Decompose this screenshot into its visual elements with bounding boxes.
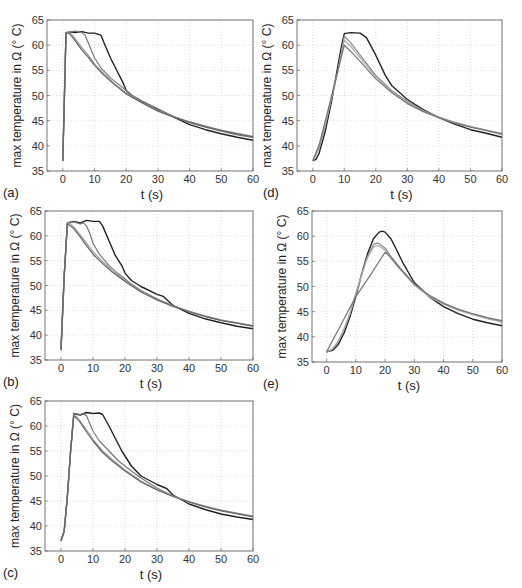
y-tick-label: 50 — [282, 90, 294, 102]
y-tick-label: 35 — [30, 545, 42, 557]
y-axis-label: max temperature in Ω (° C) — [8, 404, 22, 548]
x-tick-label: 60 — [247, 553, 259, 565]
y-tick-label: 40 — [30, 520, 42, 532]
y-axis-label: max temperature in Ω (° C) — [260, 24, 274, 168]
x-tick-label: 20 — [120, 173, 132, 185]
x-tick-label: 20 — [119, 553, 131, 565]
y-tick-label: 55 — [297, 255, 309, 267]
y-tick-label: 60 — [32, 39, 44, 51]
x-tick-label: 50 — [215, 553, 227, 565]
y-tick-label: 55 — [30, 445, 42, 457]
x-tick-label: 50 — [215, 362, 227, 374]
y-tick-label: 55 — [30, 255, 42, 267]
x-tick-label: 10 — [87, 362, 99, 374]
y-tick-label: 45 — [297, 306, 309, 318]
panel-a: 010203040506035404550556065t (s)max temp… — [3, 14, 259, 202]
multi-panel-chart: 010203040506035404550556065t (s)max temp… — [0, 0, 522, 588]
x-tick-label: 50 — [215, 173, 227, 185]
panel-c: 010203040506035404550556065t (s)max temp… — [3, 395, 259, 582]
x-tick-label: 60 — [496, 364, 508, 376]
y-tick-label: 55 — [32, 64, 44, 76]
y-tick-label: 50 — [30, 470, 42, 482]
y-tick-label: 35 — [30, 354, 42, 366]
x-tick-label: 50 — [464, 173, 476, 185]
x-tick-label: 30 — [408, 364, 420, 376]
x-axis-label: t (s) — [390, 187, 412, 202]
y-tick-label: 60 — [297, 230, 309, 242]
x-tick-label: 10 — [338, 173, 350, 185]
x-tick-label: 60 — [247, 362, 259, 374]
y-tick-label: 50 — [30, 280, 42, 292]
x-tick-label: 40 — [183, 553, 195, 565]
y-tick-label: 60 — [30, 420, 42, 432]
y-tick-label: 65 — [297, 205, 309, 217]
x-tick-label: 40 — [183, 173, 195, 185]
x-tick-label: 20 — [119, 362, 131, 374]
x-tick-label: 0 — [324, 364, 330, 376]
x-tick-label: 0 — [58, 553, 64, 565]
x-tick-label: 30 — [151, 553, 163, 565]
x-tick-label: 0 — [310, 173, 316, 185]
plot-area — [45, 211, 253, 360]
y-tick-label: 40 — [282, 140, 294, 152]
y-tick-label: 65 — [30, 205, 42, 217]
y-tick-label: 45 — [282, 115, 294, 127]
y-tick-label: 60 — [282, 39, 294, 51]
x-tick-label: 0 — [60, 173, 66, 185]
panel-e: 010203040506035404550556065t (s)max temp… — [263, 205, 508, 393]
panel-label: (d) — [263, 185, 279, 200]
panel-d: 010203040506035404550556065t (s)max temp… — [260, 14, 508, 202]
y-tick-label: 40 — [297, 331, 309, 343]
x-tick-label: 30 — [152, 173, 164, 185]
y-tick-label: 45 — [30, 304, 42, 316]
figure: 010203040506035404550556065t (s)max temp… — [0, 0, 522, 588]
y-tick-label: 55 — [282, 64, 294, 76]
x-tick-label: 10 — [87, 553, 99, 565]
panel-label: (c) — [3, 565, 18, 580]
x-axis-label: t (s) — [140, 376, 162, 391]
y-tick-label: 60 — [30, 230, 42, 242]
y-tick-label: 40 — [32, 140, 44, 152]
y-tick-label: 45 — [32, 115, 44, 127]
x-tick-label: 40 — [437, 364, 449, 376]
y-tick-label: 35 — [32, 165, 44, 177]
x-tick-label: 30 — [401, 173, 413, 185]
y-axis-label: max temperature in Ω (° C) — [10, 24, 24, 168]
x-tick-label: 10 — [350, 364, 362, 376]
y-tick-label: 50 — [297, 281, 309, 293]
x-tick-label: 30 — [151, 362, 163, 374]
x-tick-label: 40 — [433, 173, 445, 185]
y-tick-label: 65 — [30, 395, 42, 407]
panel-b: 010203040506035404550556065t (s)max temp… — [3, 205, 259, 391]
panel-label: (e) — [263, 376, 279, 391]
x-tick-label: 10 — [88, 173, 100, 185]
x-tick-label: 40 — [183, 362, 195, 374]
x-tick-label: 0 — [58, 362, 64, 374]
x-axis-label: t (s) — [140, 567, 162, 582]
y-tick-label: 35 — [282, 165, 294, 177]
panel-label: (b) — [3, 374, 19, 389]
y-tick-label: 40 — [30, 329, 42, 341]
y-tick-label: 35 — [297, 356, 309, 368]
x-tick-label: 20 — [379, 364, 391, 376]
y-tick-label: 45 — [30, 495, 42, 507]
x-tick-label: 20 — [370, 173, 382, 185]
y-tick-label: 65 — [282, 14, 294, 26]
x-tick-label: 50 — [467, 364, 479, 376]
x-tick-label: 60 — [496, 173, 508, 185]
y-tick-label: 50 — [32, 90, 44, 102]
x-axis-label: t (s) — [398, 378, 420, 393]
x-tick-label: 60 — [247, 173, 259, 185]
panel-label: (a) — [3, 185, 19, 200]
y-tick-label: 65 — [32, 14, 44, 26]
plot-area — [45, 401, 253, 551]
y-axis-label: max temperature in Ω (° C) — [8, 214, 22, 358]
x-axis-label: t (s) — [141, 187, 163, 202]
y-axis-label: max temperature in Ω (° C) — [275, 215, 289, 359]
